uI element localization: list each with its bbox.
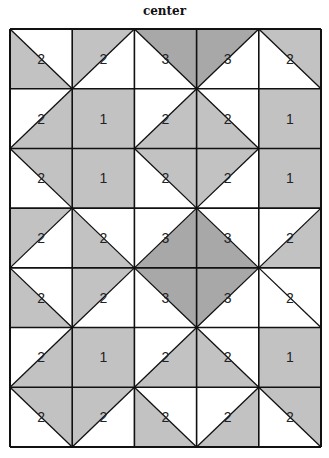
grid-cell: 2 <box>134 148 196 208</box>
grid-cell: 2 <box>72 29 134 89</box>
grid-cell: 2 <box>134 328 196 388</box>
cell-label: 2 <box>162 349 170 365</box>
grid-cell: 2 <box>197 148 259 208</box>
cell-label: 2 <box>37 111 45 127</box>
grid-cell: 3 <box>134 208 196 268</box>
cell-label: 3 <box>224 230 232 246</box>
cell-label: 1 <box>286 349 294 365</box>
grid-cell: 2 <box>10 89 72 149</box>
grid-cell: 1 <box>72 328 134 388</box>
cell-label: 2 <box>99 230 107 246</box>
cell-label: 2 <box>37 170 45 186</box>
cell-label: 2 <box>37 349 45 365</box>
cell-label: 2 <box>286 230 294 246</box>
grid-cell: 2 <box>10 148 72 208</box>
grid-cell: 2 <box>259 208 321 268</box>
cell-label: 2 <box>37 290 45 306</box>
grid-cell: 2 <box>259 387 321 447</box>
grid-cell: 1 <box>259 89 321 149</box>
grid-cell: 2 <box>10 268 72 328</box>
grid-cell: 2 <box>197 89 259 149</box>
grid-cell: 3 <box>197 208 259 268</box>
grid-cell: 2 <box>10 208 72 268</box>
grid-cell: 2 <box>259 268 321 328</box>
cell-label: 1 <box>99 170 107 186</box>
cell-label: 2 <box>99 51 107 67</box>
cell-label: 1 <box>286 170 294 186</box>
grid-cell: 2 <box>10 387 72 447</box>
grid-cell: 2 <box>259 29 321 89</box>
cell-label: 2 <box>224 111 232 127</box>
cell-label: 3 <box>162 230 170 246</box>
cell-label: 2 <box>37 230 45 246</box>
grid-cell: 2 <box>72 208 134 268</box>
triangle-tile-grid: 22332212212122122332223322122122222 <box>0 0 329 458</box>
cell-label: 2 <box>162 111 170 127</box>
cell-label: 3 <box>162 51 170 67</box>
cell-label: 1 <box>286 111 294 127</box>
grid-cell: 1 <box>259 148 321 208</box>
grid-cell: 1 <box>72 89 134 149</box>
cell-label: 3 <box>224 51 232 67</box>
grid-cell: 2 <box>134 387 196 447</box>
grid-cell: 2 <box>72 268 134 328</box>
grid-cell: 2 <box>197 328 259 388</box>
cell-label: 1 <box>99 349 107 365</box>
grid-cell: 3 <box>197 268 259 328</box>
grid-cell: 2 <box>197 387 259 447</box>
cell-label: 2 <box>286 51 294 67</box>
cell-label: 2 <box>162 170 170 186</box>
cell-label: 2 <box>286 290 294 306</box>
grid-cell: 2 <box>10 328 72 388</box>
grid-cell: 2 <box>134 89 196 149</box>
cell-label: 1 <box>99 111 107 127</box>
cell-label: 2 <box>224 170 232 186</box>
grid-cell: 3 <box>134 29 196 89</box>
cell-label: 2 <box>224 409 232 425</box>
cell-label: 2 <box>224 349 232 365</box>
cell-label: 3 <box>224 290 232 306</box>
grid-cell: 1 <box>259 328 321 388</box>
cell-label: 2 <box>162 409 170 425</box>
cell-label: 2 <box>37 409 45 425</box>
grid-cell: 3 <box>134 268 196 328</box>
cell-label: 2 <box>99 290 107 306</box>
grid-cell: 3 <box>197 29 259 89</box>
cell-label: 2 <box>286 409 294 425</box>
grid-cell: 1 <box>72 148 134 208</box>
cell-label: 2 <box>37 51 45 67</box>
cell-label: 3 <box>162 290 170 306</box>
cell-label: 2 <box>99 409 107 425</box>
grid-cell: 2 <box>10 29 72 89</box>
grid-cell: 2 <box>72 387 134 447</box>
